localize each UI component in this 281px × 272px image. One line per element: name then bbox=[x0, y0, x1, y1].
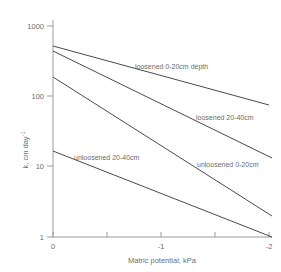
y-axis-title-exponent: -1 bbox=[20, 132, 26, 137]
series-annotations: loosened 0-20cm depth loosened 20-40cm u… bbox=[74, 63, 259, 168]
series-label-unloosened-0-20cm: unloosened 0-20cm bbox=[197, 161, 259, 168]
x-tick-label-neg2: -2 bbox=[266, 242, 273, 251]
series-label-unloosened-20-40cm: unloosened 20-40cm bbox=[74, 154, 140, 161]
y-tick-label-10: 10 bbox=[36, 162, 44, 171]
x-axis: 0 -1 -2 Matric potential, kPa bbox=[51, 232, 272, 265]
chart-svg: 1000 100 10 1 k, cm day-1 0 -1 -2 Matric… bbox=[0, 0, 281, 272]
series-label-loosened-0-20cm: loosened 0-20cm depth bbox=[135, 63, 208, 71]
series-label-loosened-20-40cm: loosened 20-40cm bbox=[196, 114, 254, 121]
y-axis-title-units: , cm day bbox=[21, 136, 30, 165]
y-axis: 1000 100 10 1 k, cm day-1 bbox=[20, 20, 53, 242]
x-tick-label-neg1: -1 bbox=[158, 242, 165, 251]
x-tick-label-0: 0 bbox=[51, 242, 55, 251]
x-axis-title: Matric potential, kPa bbox=[128, 256, 197, 265]
chart-figure: 1000 100 10 1 k, cm day-1 0 -1 -2 Matric… bbox=[0, 0, 281, 272]
y-tick-label-100: 100 bbox=[31, 92, 44, 101]
y-tick-label-1000: 1000 bbox=[27, 22, 44, 31]
y-axis-title: k, cm day-1 bbox=[20, 132, 30, 169]
series-line-unloosened-0-20cm bbox=[53, 77, 272, 216]
series-line-loosened-0-20cm bbox=[53, 46, 269, 105]
y-tick-label-1: 1 bbox=[40, 233, 44, 242]
data-series-group bbox=[53, 46, 272, 237]
